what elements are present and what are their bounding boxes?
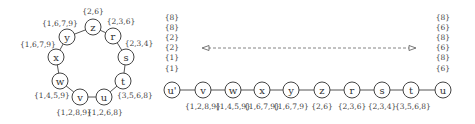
node-label: t [409, 85, 413, 96]
svg-text:{8}: {8} [436, 33, 450, 42]
svg-text:{8}: {8} [436, 13, 450, 22]
graph-figure: z {2,6} r {2,3,6} s {2,3,4} t {3,5,6,8} … [0, 0, 475, 124]
ring-node-w: w {1,4,5,9} [34, 73, 70, 100]
chain-graph: {8} {8} {2} {2} {1} {1} {8} {6} {8} {6} … [164, 13, 451, 111]
chain-node-u-prime: u' [164, 82, 180, 98]
set-label: {2,6} [311, 102, 332, 111]
node-label: w [56, 76, 65, 87]
ring-node-s: s {2,3,4} [118, 39, 153, 66]
chain-node-t: t {3,5,6,8} [395, 82, 431, 111]
set-label: {2,3,4} [368, 102, 397, 111]
node-label: u [440, 85, 447, 96]
svg-text:{2}: {2} [165, 43, 179, 52]
arrow-right-icon [409, 46, 416, 51]
chain-node-s: s {2,3,4} [368, 82, 397, 111]
svg-text:{8}: {8} [436, 53, 450, 62]
node-label: x [53, 52, 59, 63]
node-label: y [287, 85, 294, 96]
node-label: r [350, 85, 355, 96]
ring-node-x: x {1,6,7,9} [20, 40, 64, 66]
ring-graph: z {2,6} r {2,3,6} s {2,3,4} t {3,5,6,8} … [20, 7, 153, 117]
right-set-stack: {8} {6} {8} {6} {8} {6} [436, 13, 450, 73]
node-label: y [63, 32, 70, 43]
set-label: {2,3,6} [338, 102, 367, 111]
chain-node-r: r {2,3,6} [338, 82, 367, 111]
svg-text:{1}: {1} [165, 53, 179, 62]
svg-text:{8}: {8} [165, 13, 179, 22]
svg-text:{6}: {6} [436, 43, 450, 52]
set-label: {2,3,4} [125, 39, 154, 48]
set-label: {1,4,5,9} [34, 91, 70, 100]
node-label: u' [167, 85, 176, 96]
chain-node-z: z {2,6} [311, 82, 332, 111]
arrow-left-icon [202, 46, 209, 51]
svg-text:{6}: {6} [436, 23, 450, 32]
ring-node-z: z {2,6} [82, 7, 103, 36]
node-label: z [90, 22, 95, 33]
set-label: {1,6,7,9} [42, 19, 78, 28]
ring-node-t: t {3,5,6,8} [115, 73, 153, 100]
left-set-stack: {8} {8} {2} {2} {1} {1} [165, 13, 179, 73]
set-label: {2,3,6} [107, 17, 136, 26]
svg-text:{2}: {2} [165, 33, 179, 42]
set-label: {2,6} [82, 7, 103, 16]
node-label: s [379, 85, 384, 96]
svg-text:{1}: {1} [165, 64, 179, 73]
svg-text:{8}: {8} [165, 23, 179, 32]
chain-node-y: y {1,6,7,9} [273, 82, 309, 111]
set-label: {3,5,6,8} [117, 91, 153, 100]
node-label: v [76, 92, 83, 103]
svg-text:{6}: {6} [436, 64, 450, 73]
node-label: w [229, 85, 238, 96]
set-label: {1,6,7,9} [273, 102, 309, 111]
chain-node-u: u [435, 82, 451, 98]
set-label: {3,5,6,8} [395, 102, 431, 111]
node-label: v [199, 85, 206, 96]
set-label: {1,2,6,8} [87, 108, 123, 117]
node-label: s [123, 52, 128, 63]
diagram-canvas: z {2,6} r {2,3,6} s {2,3,4} t {3,5,6,8} … [0, 0, 475, 124]
set-label: {1,6,7,9} [20, 40, 56, 49]
node-label: x [259, 85, 265, 96]
set-label: {1,2,8,9} [56, 108, 92, 117]
dashed-double-arrow [202, 46, 416, 51]
node-label: z [319, 85, 324, 96]
node-label: u [101, 92, 108, 103]
node-label: t [121, 76, 125, 87]
node-label: r [111, 31, 116, 42]
